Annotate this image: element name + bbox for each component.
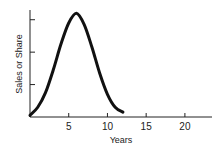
x-tick-label: 15 — [141, 121, 153, 132]
sales-curve-line — [30, 13, 123, 115]
x-tick-label: 10 — [102, 121, 114, 132]
x-tick-label: 5 — [66, 121, 72, 132]
x-tick-label: 20 — [179, 121, 191, 132]
y-axis-label: Sales or Share — [14, 34, 24, 94]
axes — [30, 10, 212, 117]
x-ticks: 5101520 — [66, 113, 191, 132]
y-ticks — [30, 20, 35, 85]
x-axis-label: Years — [110, 135, 133, 145]
sales-curve-chart: 5101520 Sales or Share Years — [0, 0, 220, 155]
